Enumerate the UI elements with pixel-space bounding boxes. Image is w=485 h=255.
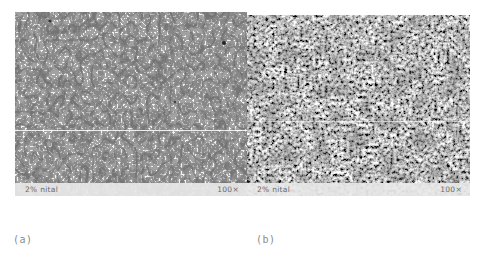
etchant-label-a: 2% nital [25,185,58,194]
micrograph-b: 2% nital 100× [247,15,470,196]
micrograph-a: 2% nital 100× [15,12,247,196]
label-bar-a: 2% nital 100× [15,183,247,196]
magnification-label-a: 100× [217,185,239,194]
label-bar-b: 2% nital 100× [247,183,470,196]
etchant-label-b: 2% nital [257,185,290,194]
scan-line [15,130,247,131]
caption-b: (b) [256,234,276,245]
caption-a: (a) [13,234,33,245]
micrograph-b-texture [247,15,470,196]
magnification-label-b: 100× [440,185,462,194]
scan-line [247,121,470,122]
micrograph-a-texture [15,12,247,196]
